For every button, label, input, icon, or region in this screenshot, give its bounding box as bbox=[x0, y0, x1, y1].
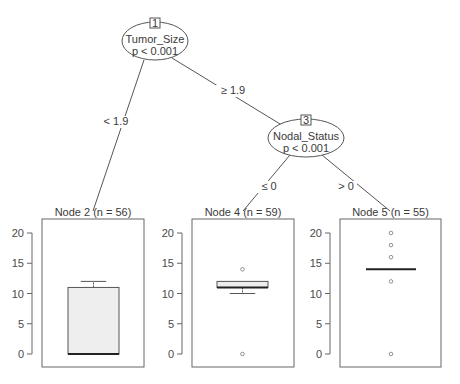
y-tick-label: 5 bbox=[18, 318, 24, 330]
terminal-node-title: Node 5 (n = 55) bbox=[352, 206, 429, 218]
terminal-node-2: Node 2 (n = 56)05101520 bbox=[12, 206, 144, 367]
node-id-label: 1 bbox=[152, 17, 158, 29]
edge-label-1-3: ≥ 1.9 bbox=[221, 84, 245, 96]
y-tick-label: 20 bbox=[12, 227, 24, 239]
y-tick-label: 15 bbox=[12, 257, 24, 269]
y-tick-label: 15 bbox=[162, 257, 174, 269]
boxplot-panel bbox=[340, 219, 441, 367]
y-tick-label: 10 bbox=[12, 288, 24, 300]
y-tick-label: 10 bbox=[162, 288, 174, 300]
node-variable-label: Tumor_Size bbox=[126, 33, 185, 45]
node-pvalue-label: p < 0.001 bbox=[283, 142, 329, 154]
inner-node-1: 1Tumor_Sizep < 0.001 bbox=[122, 17, 188, 61]
y-tick-label: 20 bbox=[162, 227, 174, 239]
y-tick-label: 5 bbox=[168, 318, 174, 330]
y-tick-label: 0 bbox=[316, 348, 322, 360]
node-variable-label: Nodal_Status bbox=[273, 130, 340, 142]
inner-node-3: 3Nodal_Statusp < 0.001 bbox=[268, 114, 344, 158]
decision-tree-chart: < 1.9≥ 1.9≤ 0> 01Tumor_Sizep < 0.0013Nod… bbox=[0, 0, 460, 384]
y-tick-label: 0 bbox=[18, 348, 24, 360]
node-pvalue-label: p < 0.001 bbox=[132, 45, 178, 57]
edge-label-3-5: > 0 bbox=[338, 180, 354, 192]
y-tick-label: 15 bbox=[310, 257, 322, 269]
terminal-node-title: Node 4 (n = 59) bbox=[205, 206, 282, 218]
edge-line-1-2 bbox=[93, 60, 144, 211]
terminal-node-4: Node 4 (n = 59)05101520 bbox=[162, 206, 294, 367]
y-tick-label: 10 bbox=[310, 288, 322, 300]
y-tick-label: 0 bbox=[168, 348, 174, 360]
terminal-node-title: Node 2 (n = 56) bbox=[55, 206, 132, 218]
y-tick-label: 20 bbox=[310, 227, 322, 239]
edge-label-3-4: ≤ 0 bbox=[261, 180, 276, 192]
edge-label-1-2: < 1.9 bbox=[104, 115, 129, 127]
box-iqr bbox=[68, 287, 119, 354]
node-id-label: 3 bbox=[303, 114, 309, 126]
edges-group: < 1.9≥ 1.9≤ 0> 0 bbox=[93, 58, 390, 211]
terminal-node-5: Node 5 (n = 55)05101520 bbox=[310, 206, 441, 367]
y-tick-label: 5 bbox=[316, 318, 322, 330]
